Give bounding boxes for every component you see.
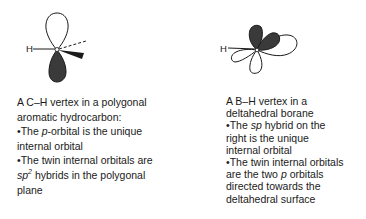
caption-bullet: •The p-orbital is the unique xyxy=(17,124,153,139)
caption-line: internal orbital xyxy=(226,144,343,156)
hydrogen-label: H xyxy=(26,43,33,54)
p-orbital-lower-lobe xyxy=(49,50,66,82)
h-bond xyxy=(228,48,256,49)
caption-line: aromatic hydrocarbon: xyxy=(17,110,153,125)
ch-vertex-caption: A C–H vertex in a polygonal aromatic hyd… xyxy=(17,95,153,197)
caption-line: are the two p orbitals xyxy=(226,168,343,180)
caption-line: internal orbital xyxy=(17,139,153,154)
caption-bullet: •The sp hybrid on the xyxy=(226,119,343,131)
text: hybrid on the xyxy=(262,119,326,131)
caption-line: deltahedral surface xyxy=(226,193,343,205)
p-orbital-upper-lobe xyxy=(46,13,68,50)
caption-line: deltahedral borane xyxy=(226,107,343,119)
caption-line: A B–H vertex in a xyxy=(226,95,343,107)
ch-vertex-diagram: H xyxy=(26,13,86,82)
text: orbitals xyxy=(287,168,324,180)
caption-line: A C–H vertex in a polygonal xyxy=(17,95,153,110)
italic-term: sp xyxy=(251,119,262,131)
caption-bullet: •The twin internal orbitals are xyxy=(17,153,153,168)
text: •The xyxy=(226,119,251,131)
text: -orbital is the unique xyxy=(48,125,143,137)
caption-bullet: •The twin internal orbitals xyxy=(226,156,343,168)
text: are the two xyxy=(226,168,281,180)
text: •The xyxy=(17,125,42,137)
bh-vertex-diagram: H xyxy=(220,25,297,73)
caption-line: right is the unique xyxy=(226,132,343,144)
caption-line: sp2 hybrids in the polygonal xyxy=(17,168,153,183)
caption-line: directed towards the xyxy=(226,180,343,192)
hydrogen-label: H xyxy=(220,43,227,54)
italic-term: sp xyxy=(17,169,28,181)
bh-vertex-caption: A B–H vertex in a deltahedral borane •Th… xyxy=(226,95,343,205)
text: hybrids in the polygonal xyxy=(32,169,145,181)
caption-line: plane xyxy=(17,183,153,198)
